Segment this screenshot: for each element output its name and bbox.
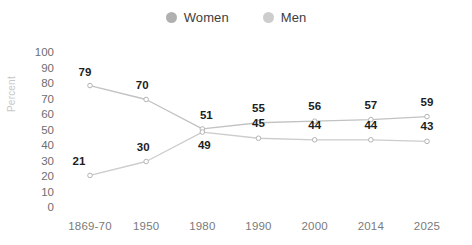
x-tick-label: 2014: [358, 221, 384, 233]
line-chart: Women Men Percent 1009080706050403020100…: [0, 0, 472, 245]
x-tick-label: 1980: [189, 221, 215, 233]
x-tick-label: 1869-70: [68, 221, 112, 233]
x-tick-label: 2025: [414, 221, 440, 233]
x-axis: 1869-70195019801990200020142025: [0, 0, 472, 245]
x-tick-label: 2000: [301, 221, 327, 233]
x-tick-label: 1990: [245, 221, 271, 233]
x-tick-label: 1950: [133, 221, 159, 233]
